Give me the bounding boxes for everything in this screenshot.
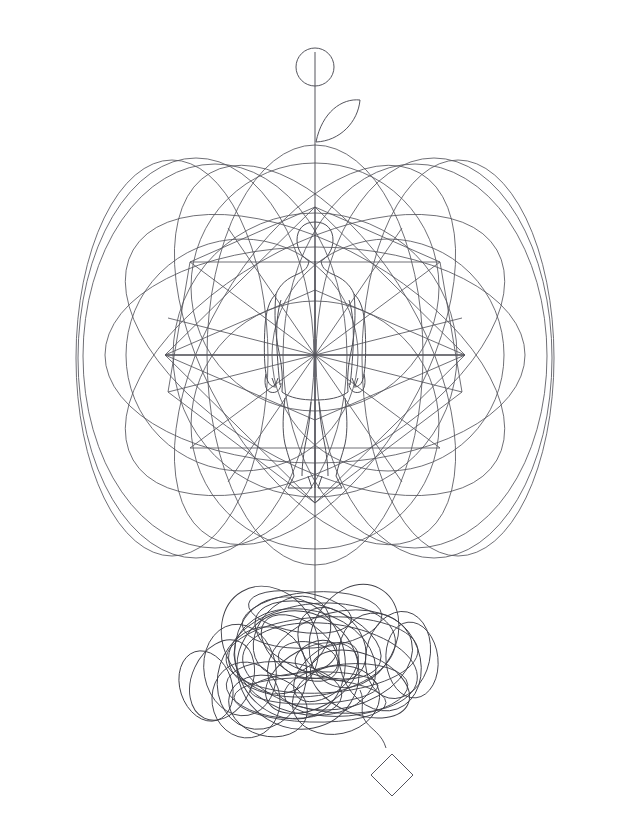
artwork-canvas: [0, 0, 620, 839]
line-art-svg: [0, 0, 620, 839]
background: [0, 0, 620, 839]
